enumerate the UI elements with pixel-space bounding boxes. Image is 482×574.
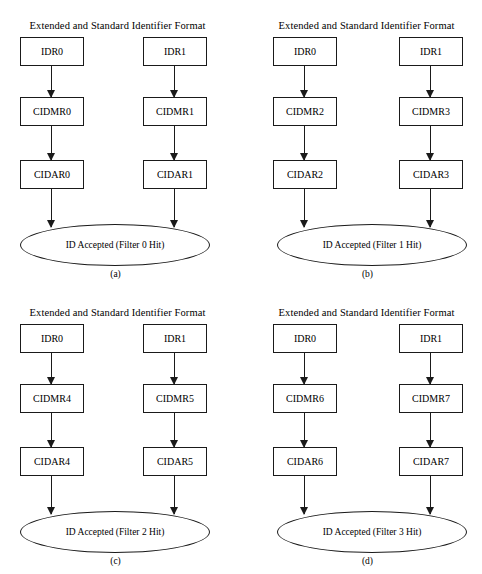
panel-a-right-arrow-1 (170, 66, 179, 97)
panel-c-left-node-2: CIDMR4 (20, 384, 84, 413)
panel-c-right-arrow-1 (170, 353, 179, 384)
panel-c-left-arrow-1 (47, 353, 56, 384)
panel-b-left-arrow-3 (300, 189, 309, 227)
panel-d-right-arrow-2 (426, 413, 435, 447)
panel-a-left-arrow-1 (47, 66, 56, 97)
panel-d-right-arrow-1 (426, 353, 435, 384)
panel-a-right-node-1: IDR1 (143, 37, 207, 66)
panel-a-label: (a) (0, 268, 236, 280)
panel-d-left-arrow-2 (300, 413, 309, 447)
panel-d-left-arrow-1 (300, 353, 309, 384)
panel-a-right-node-3: CIDAR1 (143, 160, 207, 189)
panel-c-right-node-2: CIDMR5 (143, 384, 207, 413)
panel-c-left-node-3: CIDAR4 (20, 447, 84, 476)
panel-a-right-arrow-2 (170, 126, 179, 160)
panel-a-title: Extended and Standard Identifier Format (0, 20, 238, 32)
panel-c-right-node-3: CIDAR5 (143, 447, 207, 476)
panel-c-right-arrow-2 (170, 413, 179, 447)
panel-c-title: Extended and Standard Identifier Format (0, 307, 238, 319)
panel-b-left-arrow-1 (300, 66, 309, 97)
panel-b-right-arrow-2 (426, 126, 435, 160)
panel-d-right-node-3: CIDAR7 (399, 447, 463, 476)
panel-b-right-arrow-3 (426, 189, 435, 227)
panel-c-result-ellipse: ID Accepted (Filter 2 Hit) (20, 511, 210, 553)
panel-b-right-node-2: CIDMR3 (399, 97, 463, 126)
panel-c-left-node-1: IDR0 (20, 324, 84, 353)
panel-b-right-arrow-1 (426, 66, 435, 97)
panel-c: Extended and Standard Identifier Format … (0, 287, 241, 574)
panel-c-left-arrow-2 (47, 413, 56, 447)
panel-a-left-node-1: IDR0 (20, 37, 84, 66)
panel-b-title: Extended and Standard Identifier Format (246, 20, 482, 32)
panel-d-left-node-3: CIDAR6 (273, 447, 337, 476)
panel-c-right-arrow-3 (170, 476, 179, 514)
can-filter-diagram-figure: Extended and Standard Identifier Format … (0, 0, 482, 574)
panel-a-left-arrow-2 (47, 126, 56, 160)
panel-a-result-ellipse: ID Accepted (Filter 0 Hit) (20, 224, 210, 266)
panel-d-left-node-2: CIDMR6 (273, 384, 337, 413)
panel-b-label: (b) (247, 268, 482, 280)
panel-b-result-ellipse: ID Accepted (Filter 1 Hit) (277, 224, 467, 266)
panel-d-left-node-1: IDR0 (273, 324, 337, 353)
panel-b-left-node-2: CIDMR2 (273, 97, 337, 126)
panel-c-right-node-1: IDR1 (143, 324, 207, 353)
panel-a-right-node-2: CIDMR1 (143, 97, 207, 126)
panel-a: Extended and Standard Identifier Format … (0, 0, 241, 287)
panel-b: Extended and Standard Identifier Format … (241, 0, 482, 287)
panel-b-left-arrow-2 (300, 126, 309, 160)
panel-d: Extended and Standard Identifier Format … (241, 287, 482, 574)
panel-c-left-arrow-3 (47, 476, 56, 514)
panel-b-right-node-3: CIDAR3 (399, 160, 463, 189)
panel-d-right-node-1: IDR1 (399, 324, 463, 353)
panel-d-result-ellipse: ID Accepted (Filter 3 Hit) (277, 511, 467, 553)
panel-b-left-node-3: CIDAR2 (273, 160, 337, 189)
panel-a-left-arrow-3 (47, 189, 56, 227)
panel-b-left-node-1: IDR0 (273, 37, 337, 66)
panel-a-right-arrow-3 (170, 189, 179, 227)
panel-d-title: Extended and Standard Identifier Format (246, 307, 482, 319)
panel-a-left-node-3: CIDAR0 (20, 160, 84, 189)
panel-d-right-arrow-3 (426, 476, 435, 514)
panel-b-right-node-1: IDR1 (399, 37, 463, 66)
panel-d-right-node-2: CIDMR7 (399, 384, 463, 413)
panel-d-label: (d) (247, 555, 482, 567)
panel-d-left-arrow-3 (300, 476, 309, 514)
panel-a-left-node-2: CIDMR0 (20, 97, 84, 126)
panel-c-label: (c) (0, 555, 236, 567)
